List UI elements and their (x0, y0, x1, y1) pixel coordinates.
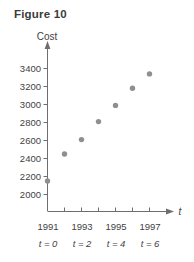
y-tick-label: 3400 (20, 63, 41, 74)
x-axis-ticks (65, 208, 150, 212)
y-tick-label: 2400 (20, 153, 41, 164)
y-axis-label: Cost (37, 31, 58, 42)
y-tick-label: 2600 (20, 135, 41, 146)
x-tick-sublabel: t = 0 (39, 238, 58, 249)
x-axis-arrow-icon (166, 209, 174, 215)
x-tick-label: 1997 (139, 221, 160, 232)
data-point (130, 86, 135, 91)
x-tick-label: 1993 (71, 221, 92, 232)
x-tick-label: 1991 (37, 221, 58, 232)
x-tick-sublabel: t = 6 (141, 238, 160, 249)
x-tick-sublabel: t = 2 (73, 238, 92, 249)
x-tick-label: 1995 (105, 221, 126, 232)
data-point (96, 119, 101, 124)
y-tick-label: 2200 (20, 171, 41, 182)
x-tick-sublabel: t = 4 (107, 238, 126, 249)
y-tick-label: 3000 (20, 99, 41, 110)
x-axis-label: t (179, 206, 183, 217)
scatter-plot: 3400 3200 3000 2800 2600 2400 2200 2000 … (0, 0, 194, 262)
data-point (79, 137, 84, 142)
data-point-group (45, 71, 152, 183)
data-point (113, 103, 118, 108)
y-axis-tick-labels: 3400 3200 3000 2800 2600 2400 2200 2000 (20, 63, 41, 200)
y-tick-label: 3200 (20, 81, 41, 92)
figure-container: Figure 10 3400 (0, 0, 194, 262)
y-axis-arrow-icon (45, 41, 51, 49)
data-point (45, 178, 50, 183)
y-tick-label: 2800 (20, 117, 41, 128)
data-point (147, 71, 152, 76)
y-axis-ticks (44, 69, 48, 195)
x-axis-t-labels: t = 0 t = 2 t = 4 t = 6 (39, 238, 160, 249)
data-point (62, 151, 67, 156)
y-tick-label: 2000 (20, 189, 41, 200)
x-axis-year-labels: 1991 1993 1995 1997 (37, 221, 160, 232)
